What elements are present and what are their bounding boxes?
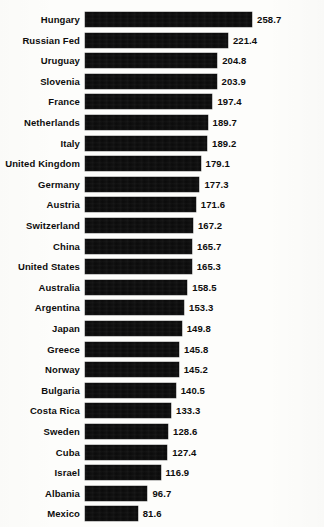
bar — [85, 506, 138, 521]
bar — [85, 94, 212, 109]
bar — [85, 300, 184, 315]
bar — [85, 177, 199, 192]
category-label: United States — [18, 259, 80, 274]
bar-row: Switzerland167.2 — [0, 218, 324, 233]
value-label: 189.2 — [212, 136, 236, 151]
category-label: Uruguay — [41, 53, 80, 68]
value-label: 167.2 — [198, 218, 222, 233]
value-label: 153.3 — [189, 300, 213, 315]
value-label: 116.9 — [166, 465, 190, 480]
bar — [85, 12, 252, 27]
value-label: 165.7 — [197, 239, 221, 254]
value-label: 96.7 — [152, 486, 171, 501]
category-label: Mexico — [47, 506, 80, 521]
bar-row: Australia158.5 — [0, 280, 324, 295]
category-label: United Kingdom — [5, 156, 80, 171]
value-label: 149.8 — [187, 321, 211, 336]
bar — [85, 486, 147, 501]
value-label: 177.3 — [204, 177, 228, 192]
value-label: 81.6 — [143, 506, 162, 521]
category-label: China — [53, 239, 80, 254]
category-label: Australia — [38, 280, 80, 295]
category-label: Japan — [52, 321, 80, 336]
category-label: Switzerland — [26, 218, 80, 233]
value-label: 165.3 — [197, 259, 221, 274]
bar-row: Hungary258.7 — [0, 12, 324, 27]
bar-row: Russian Fed221.4 — [0, 33, 324, 48]
bar — [85, 53, 217, 68]
bar-row: France197.4 — [0, 94, 324, 109]
value-label: 158.5 — [192, 280, 216, 295]
bar — [85, 403, 171, 418]
value-label: 221.4 — [233, 33, 257, 48]
value-label: 189.7 — [213, 115, 237, 130]
bar — [85, 218, 193, 233]
category-label: Bulgaria — [41, 383, 80, 398]
bar-row: Slovenia203.9 — [0, 74, 324, 89]
category-label: Slovenia — [40, 74, 80, 89]
category-label: France — [48, 94, 80, 109]
category-label: Austria — [47, 197, 80, 212]
category-label: Costa Rica — [30, 403, 80, 418]
bar-row: Germany177.3 — [0, 177, 324, 192]
value-label: 128.6 — [173, 424, 197, 439]
bar-row: Argentina153.3 — [0, 300, 324, 315]
value-label: 197.4 — [217, 94, 241, 109]
bar-row: United Kingdom179.1 — [0, 156, 324, 171]
value-label: 133.3 — [176, 403, 200, 418]
category-label: Italy — [60, 136, 80, 151]
bar — [85, 280, 187, 295]
value-label: 140.5 — [181, 383, 205, 398]
value-label: 127.4 — [172, 445, 196, 460]
bar — [85, 383, 176, 398]
bar-row: Uruguay204.8 — [0, 53, 324, 68]
value-label: 171.6 — [201, 197, 225, 212]
bar — [85, 74, 217, 89]
bar — [85, 156, 201, 171]
bar-row: Netherlands189.7 — [0, 115, 324, 130]
bar-row: China165.7 — [0, 239, 324, 254]
bar-row: Greece145.8 — [0, 342, 324, 357]
category-label: Argentina — [35, 300, 80, 315]
bar — [85, 445, 167, 460]
category-label: Hungary — [41, 12, 80, 27]
bar — [85, 424, 168, 439]
bar-row: Austria171.6 — [0, 197, 324, 212]
bar-row: Italy189.2 — [0, 136, 324, 151]
category-label: Russian Fed — [22, 33, 80, 48]
bar-row: Norway145.2 — [0, 362, 324, 377]
bar — [85, 321, 182, 336]
bar — [85, 342, 179, 357]
value-label: 203.9 — [222, 74, 246, 89]
horizontal-bar-chart: Hungary258.7Russian Fed221.4Uruguay204.8… — [0, 0, 324, 527]
bar — [85, 239, 192, 254]
value-label: 179.1 — [206, 156, 230, 171]
bar-row: Bulgaria140.5 — [0, 383, 324, 398]
category-label: Germany — [38, 177, 80, 192]
bar — [85, 197, 196, 212]
bar — [85, 259, 192, 274]
bar-row: United States165.3 — [0, 259, 324, 274]
bar — [85, 465, 161, 480]
category-label: Albania — [45, 486, 80, 501]
category-label: Netherlands — [24, 115, 80, 130]
bar — [85, 115, 208, 130]
value-label: 145.2 — [184, 362, 208, 377]
category-label: Greece — [47, 342, 80, 357]
category-label: Sweden — [44, 424, 81, 439]
bar-row: Japan149.8 — [0, 321, 324, 336]
value-label: 145.8 — [184, 342, 208, 357]
value-label: 204.8 — [222, 53, 246, 68]
bar-row: Sweden128.6 — [0, 424, 324, 439]
category-label: Cuba — [56, 445, 80, 460]
bar-row: Albania96.7 — [0, 486, 324, 501]
bar — [85, 362, 179, 377]
bar-row: Israel116.9 — [0, 465, 324, 480]
bar-row: Costa Rica133.3 — [0, 403, 324, 418]
bar-row: Mexico81.6 — [0, 506, 324, 521]
bar — [85, 33, 228, 48]
category-label: Israel — [55, 465, 80, 480]
value-label: 258.7 — [257, 12, 281, 27]
category-label: Norway — [45, 362, 80, 377]
bar — [85, 136, 207, 151]
